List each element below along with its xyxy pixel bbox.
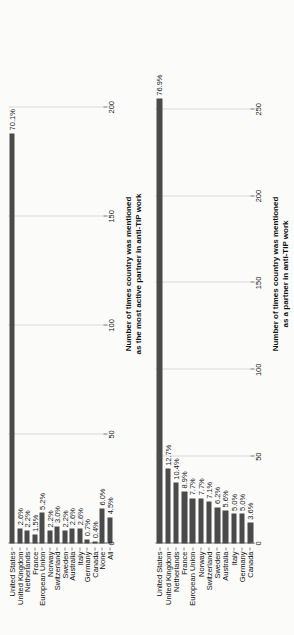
- category-tick-label: European Union: [188, 547, 196, 635]
- tick-mark: [159, 547, 160, 550]
- bar: [92, 541, 97, 543]
- tick-mark: [200, 547, 201, 550]
- category-tick-label: Australia: [221, 547, 229, 635]
- bar-row: 2.2%: [23, 74, 31, 543]
- bar-value-label: 3.6%: [246, 502, 254, 519]
- bar: [247, 522, 253, 543]
- category-tick-label: United States: [8, 547, 16, 635]
- category-axis-partner: United StatesUnited KingdomNetherlandsFr…: [155, 547, 254, 635]
- bar-row: 2.6%: [76, 74, 84, 543]
- bar-row: 2.2%: [46, 74, 54, 543]
- category-tick-label: Canada: [246, 547, 254, 635]
- tick-mark: [109, 547, 110, 550]
- category-tick-label: Switzerland: [205, 547, 213, 635]
- tick-mark: [49, 547, 50, 550]
- bar-series-partner: 76.9%12.7%10.4%8.9%7.7%7.7%7.1%6.2%5.6%5…: [155, 74, 254, 543]
- bar-row: 6.2%: [213, 74, 221, 543]
- plot-area-partner: 76.9%12.7%10.4%8.9%7.7%7.7%7.1%6.2%5.6%5…: [155, 74, 254, 543]
- bar-row: 70.1%: [8, 74, 16, 543]
- bar-value-label: 10.4%: [172, 458, 180, 479]
- x-tick-label: 150: [254, 276, 262, 289]
- tick-mark: [101, 547, 102, 550]
- bar: [24, 530, 29, 543]
- bar-row: 2.6%: [16, 74, 24, 543]
- tick-mark: [79, 547, 80, 550]
- category-tick-label: European Union: [38, 547, 46, 635]
- category-tick-label: Netherlands: [23, 547, 31, 635]
- x-axis-title-partner: Number of times country was mentioned as…: [270, 4, 294, 543]
- category-tick-label: Norway: [196, 547, 204, 635]
- bar-row: 7.7%: [196, 74, 204, 543]
- bar-series-most-active: 70.1%2.6%2.2%1.5%5.2%2.2%3.0%2.2%2.6%2.6…: [8, 74, 107, 543]
- bar-value-label: 76.9%: [155, 74, 163, 95]
- bar: [54, 526, 59, 543]
- bar-row: 7.7%: [188, 74, 196, 543]
- x-tick-label: 250: [254, 102, 262, 115]
- bar: [9, 133, 14, 543]
- bar-row: 7.1%: [205, 74, 213, 543]
- bar-row: 0.7%: [83, 74, 91, 543]
- category-tick-label: United States: [155, 547, 163, 635]
- bar-row: 76.9%: [155, 74, 163, 543]
- tick-mark: [175, 547, 176, 550]
- category-tick-label: France: [180, 547, 188, 635]
- x-tick-label: 0: [254, 541, 262, 545]
- category-tick-label: Germany: [83, 547, 91, 635]
- bar-row: 5.0%: [238, 74, 246, 543]
- tick-mark: [19, 547, 20, 550]
- tick-mark: [241, 547, 242, 550]
- tick-mark: [71, 547, 72, 550]
- bar: [39, 512, 44, 543]
- bar: [17, 528, 22, 543]
- tick-mark: [26, 547, 27, 550]
- category-tick-label: Germany: [238, 547, 246, 635]
- bar: [47, 530, 52, 543]
- tick-mark: [34, 547, 35, 550]
- bar-value-label: 0.4%: [91, 521, 99, 538]
- x-tick-label: 100: [254, 363, 262, 376]
- tick-mark: [192, 547, 193, 550]
- tick-mark: [216, 547, 217, 550]
- bar: [32, 534, 37, 543]
- bar-row: 6.0%: [98, 74, 106, 543]
- x-tick-label: 200: [254, 189, 262, 202]
- x-tick-label: 200: [107, 100, 115, 113]
- x-tick-label: 50: [107, 430, 115, 438]
- tick-mark: [56, 547, 57, 550]
- chart-most-active-partner: United StatesUnited KingdomNetherlandsFr…: [0, 0, 147, 635]
- bar: [214, 507, 220, 543]
- tick-mark: [64, 547, 65, 550]
- category-axis-most-active: United StatesUnited KingdomNetherlandsFr…: [8, 547, 107, 635]
- bar-value-label: 6.2%: [213, 486, 221, 503]
- bar-value-label: 2.6%: [68, 508, 76, 525]
- x-tick-label: 150: [107, 210, 115, 223]
- bar-value-label: 3.0%: [53, 505, 61, 522]
- category-tick-label: None: [98, 547, 106, 635]
- bar-row: 12.7%: [163, 74, 171, 543]
- bar-value-label: 70.1%: [8, 109, 16, 130]
- bar: [198, 498, 204, 543]
- x-axis-ticks-most-active: 050100150200: [107, 74, 121, 543]
- tick-mark: [183, 547, 184, 550]
- bar: [222, 510, 228, 543]
- tick-mark: [94, 547, 95, 550]
- bar-row: 2.2%: [61, 74, 69, 543]
- x-axis-title-line2: as the most active partner in anti-TIP w…: [133, 4, 143, 543]
- category-tick-label: Australia: [68, 547, 76, 635]
- category-tick-label: All: [106, 547, 114, 635]
- chart-partner: United StatesUnited KingdomNetherlandsFr…: [147, 0, 294, 635]
- bar: [99, 508, 104, 543]
- bar-row: 10.4%: [172, 74, 180, 543]
- x-axis-ticks-partner: 050100150200250: [254, 74, 268, 543]
- bar-value-label: 2.2%: [23, 510, 31, 527]
- tick-mark: [11, 547, 12, 550]
- bar-value-label: 5.0%: [238, 493, 246, 510]
- category-tick-label: Italy: [229, 547, 237, 635]
- tick-mark: [249, 547, 250, 550]
- bar: [69, 528, 74, 543]
- bar-value-label: 8.9%: [180, 471, 188, 488]
- bar: [231, 513, 237, 543]
- tick-mark: [41, 547, 42, 550]
- bar-value-label: 5.6%: [221, 490, 229, 507]
- bar-value-label: 7.7%: [188, 478, 196, 495]
